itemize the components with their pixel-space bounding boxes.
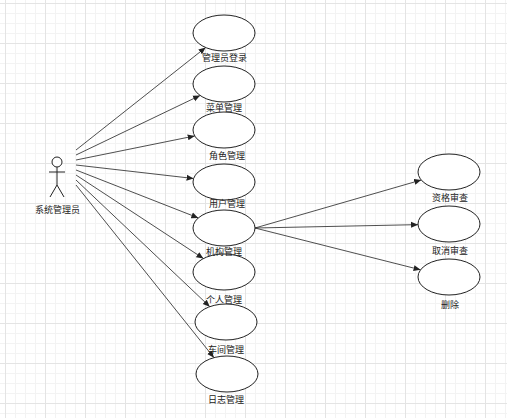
use-case-label-org: 机构管理 <box>206 245 242 258</box>
use-case-label-menu: 菜单管理 <box>206 101 242 114</box>
use-case-uc2 <box>193 66 255 102</box>
use-case-uc3 <box>193 112 255 148</box>
use-case-label-cancel-review: 取消审查 <box>432 244 468 257</box>
use-case-label-role: 角色管理 <box>209 149 245 162</box>
use-case-uc8 <box>196 356 258 392</box>
use-case-uc1 <box>193 15 255 51</box>
association-arrow <box>76 95 200 155</box>
use-case-uc6 <box>193 254 255 290</box>
association-arrow <box>255 228 421 270</box>
use-case-label-workshop: 车间管理 <box>208 343 244 356</box>
association-arrow <box>76 48 206 150</box>
use-case-label-user: 用户管理 <box>209 197 245 210</box>
actor-stick-figure-icon <box>49 157 65 197</box>
use-case-uc11 <box>418 259 480 295</box>
use-case-label-admin-login: 管理员登录 <box>202 51 247 64</box>
use-case-uc5 <box>193 210 255 246</box>
association-arrow <box>76 165 194 179</box>
association-arrow <box>255 180 421 228</box>
actor-label: 系统管理员 <box>35 203 80 216</box>
use-case-label-log: 日志管理 <box>208 393 244 406</box>
use-case-label-qualification: 资格审查 <box>432 191 468 204</box>
use-case-uc4 <box>193 164 255 200</box>
association-arrow <box>76 136 195 160</box>
association-arrow <box>255 225 418 228</box>
use-case-uc9 <box>418 154 480 190</box>
association-arrow <box>76 180 210 307</box>
diagram-canvas: 系统管理员 管理员登录 菜单管理 角色管理 用户管理 机构管理 个人管理 车间管… <box>0 0 507 418</box>
use-case-uc7 <box>195 304 257 340</box>
association-arrow <box>76 175 203 259</box>
use-case-label-delete: 删除 <box>441 298 459 311</box>
use-case-label-personal: 个人管理 <box>206 293 242 306</box>
use-case-uc10 <box>418 206 480 242</box>
